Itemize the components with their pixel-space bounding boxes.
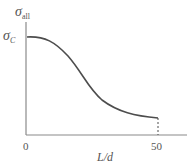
y-axis-symbol: σ [15, 4, 22, 19]
x-tick-50: 50 [151, 140, 162, 152]
x-axis-label: L/d [97, 150, 113, 165]
y-axis-label: σall [15, 4, 30, 21]
y-axis-subscript: all [22, 12, 30, 21]
y-intercept-subscript: C [10, 36, 15, 45]
chart-canvas [0, 0, 196, 166]
y-intercept-label: σC [3, 28, 15, 45]
stress-curve [27, 37, 158, 118]
x-tick-0: 0 [23, 140, 29, 152]
y-intercept-symbol: σ [3, 28, 10, 43]
